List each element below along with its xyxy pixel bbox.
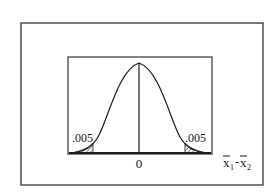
center-tick-label: 0: [136, 156, 143, 171]
left-tail-label: .005: [72, 131, 93, 145]
axis-sub2: 2: [247, 163, 251, 172]
axis-var1: x: [223, 155, 230, 170]
axis-label: x 1 - x 2: [223, 155, 251, 172]
diagram-canvas: .005 .005 0 x 1 - x 2: [0, 0, 273, 195]
axis-var2: x: [240, 155, 247, 170]
axis-sub1: 1: [230, 163, 234, 172]
right-tail-label: .005: [185, 131, 206, 145]
axis-sep: -: [235, 155, 239, 169]
